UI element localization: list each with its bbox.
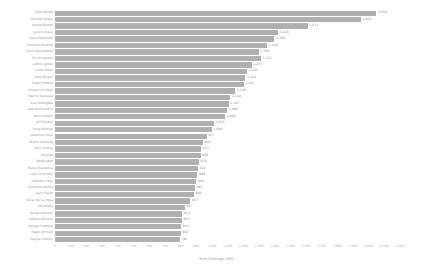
x-tick-label: 600 bbox=[146, 245, 152, 248]
x-tick-label: 700 bbox=[162, 245, 168, 248]
bar-row: Wayne Gretzky796 bbox=[55, 237, 400, 243]
bar bbox=[55, 62, 252, 67]
x-tick-label: 1,700 bbox=[317, 245, 326, 248]
bar bbox=[55, 114, 225, 119]
bar-value-label: 912 bbox=[200, 167, 206, 170]
bar-value-label: 804 bbox=[183, 225, 189, 228]
x-tick-label: 2,000 bbox=[364, 245, 373, 248]
category-label: Wayne Gretzky bbox=[30, 238, 53, 241]
x-tick-label: 2,200 bbox=[395, 245, 404, 248]
bar-value-label: 967 bbox=[208, 135, 214, 138]
bar-value-label: 2,050 bbox=[378, 12, 387, 15]
category-label: Maria Sharapova bbox=[28, 167, 53, 170]
category-label: Shaquille O'Neal bbox=[28, 89, 53, 92]
bar bbox=[55, 231, 181, 236]
bar-value-label: 928 bbox=[202, 154, 208, 157]
bar-row: Novak Djokovic813 bbox=[55, 211, 400, 217]
category-label: George Foreman bbox=[28, 225, 53, 228]
bar-value-label: 1,255 bbox=[253, 63, 262, 66]
bar-row: Neymar928 bbox=[55, 152, 400, 158]
bar bbox=[55, 159, 199, 164]
x-tick-label: 500 bbox=[130, 245, 136, 248]
bar-value-label: 1,300 bbox=[260, 50, 269, 53]
x-tick-label: 400 bbox=[115, 245, 121, 248]
category-label: Neymar bbox=[41, 154, 53, 157]
bar-value-label: 893 bbox=[197, 186, 203, 189]
x-tick-label: 0 bbox=[54, 245, 56, 248]
bar bbox=[55, 108, 227, 113]
x-tick-label: 2,100 bbox=[380, 245, 389, 248]
category-label: Peyton Manning bbox=[29, 141, 53, 144]
bar-value-label: 946 bbox=[205, 141, 211, 144]
bar bbox=[55, 43, 267, 48]
category-label: Alex Rodriguez bbox=[31, 102, 53, 105]
bar bbox=[55, 23, 308, 28]
x-tick-label: 1,600 bbox=[301, 245, 310, 248]
category-label: Floyd Mayweather bbox=[25, 51, 53, 54]
bar bbox=[55, 30, 278, 35]
bar bbox=[55, 218, 182, 223]
bar-value-label: 1,611 bbox=[309, 25, 318, 28]
category-label: Fernando Alonso bbox=[28, 186, 53, 189]
bar bbox=[55, 56, 261, 61]
category-label: Jeff Gordon bbox=[36, 122, 53, 125]
bar bbox=[55, 140, 203, 145]
bar-value-label: 1,086 bbox=[227, 115, 236, 118]
bar bbox=[55, 49, 259, 54]
category-label: Valentino Rossi bbox=[30, 135, 53, 138]
bar bbox=[55, 237, 180, 242]
x-tick-label: 200 bbox=[83, 245, 89, 248]
x-tick-label: 1,200 bbox=[239, 245, 248, 248]
bar-value-label: 810 bbox=[184, 219, 190, 222]
category-label: Lewis Hamilton bbox=[30, 173, 53, 176]
x-tick-label: 100 bbox=[68, 245, 74, 248]
bar bbox=[55, 88, 235, 93]
bar-value-label: 1,315 bbox=[263, 57, 272, 60]
category-label: Kobe Bryant bbox=[35, 76, 53, 79]
x-tick-label: 1,800 bbox=[333, 245, 342, 248]
category-label: Arnold Palmer bbox=[32, 25, 53, 28]
bar-value-label: 1,226 bbox=[249, 70, 258, 73]
x-tick-label: 300 bbox=[99, 245, 105, 248]
category-label: Manny Pacquiao bbox=[29, 96, 54, 99]
bar-value-label: 1,107 bbox=[230, 102, 239, 105]
x-tick-label: 1,000 bbox=[207, 245, 216, 248]
bar-value-label: 802 bbox=[182, 232, 188, 235]
category-label: Tom Brady bbox=[37, 206, 53, 209]
category-label: Kevin Durant bbox=[34, 115, 54, 118]
category-label: Michael Jordan bbox=[31, 18, 53, 21]
bar bbox=[55, 36, 274, 41]
category-label: Phil Mickelson bbox=[32, 57, 53, 60]
bar bbox=[55, 166, 198, 171]
bar-row: Manny Pacquiao1,118 bbox=[55, 94, 400, 100]
bar-value-label: 827 bbox=[186, 206, 192, 209]
bar bbox=[55, 185, 195, 190]
bar bbox=[55, 95, 230, 100]
x-axis-title: Total Earnings ($M) bbox=[0, 258, 432, 262]
bar-value-label: 1,349 bbox=[268, 44, 277, 47]
bar-value-label: 902 bbox=[198, 180, 204, 183]
bar bbox=[55, 192, 194, 197]
bar bbox=[55, 172, 197, 177]
bar-value-label: 1,950 bbox=[362, 18, 371, 21]
category-label: Gary Player bbox=[36, 193, 53, 196]
bar bbox=[55, 75, 245, 80]
bar-value-label: 908 bbox=[199, 173, 205, 176]
category-label: Oscar De La Hoya bbox=[26, 199, 53, 202]
bar-value-label: 1,399 bbox=[276, 38, 285, 41]
category-label: Greg Norman bbox=[33, 128, 53, 131]
category-label: Stephen Curry bbox=[31, 180, 53, 183]
bar bbox=[55, 224, 181, 229]
bar bbox=[55, 127, 212, 132]
category-label: Serena Williams bbox=[29, 219, 53, 222]
bar-value-label: 1,149 bbox=[237, 89, 246, 92]
bar bbox=[55, 69, 247, 74]
bar-row: Jeff Gordon1,013 bbox=[55, 120, 400, 126]
x-tick-label: 1,300 bbox=[254, 245, 263, 248]
category-label: Jack Nicklaus bbox=[33, 31, 53, 34]
bar bbox=[55, 101, 229, 106]
plot-area: Tiger Woods2,050Michael Jordan1,950Arnol… bbox=[55, 10, 400, 243]
category-label: David Beckham bbox=[29, 38, 53, 41]
bar bbox=[55, 179, 196, 184]
x-tick-label: 1,100 bbox=[223, 245, 232, 248]
